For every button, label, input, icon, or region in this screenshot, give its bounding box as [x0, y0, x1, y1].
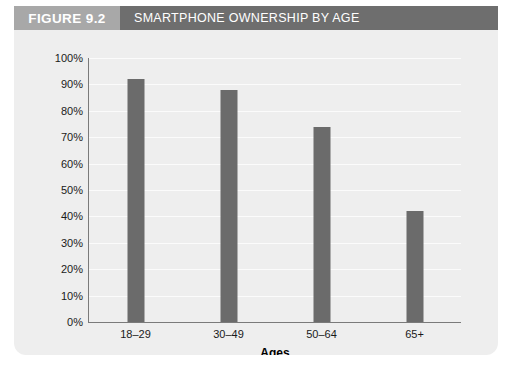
x-axis-title: Ages [260, 346, 289, 355]
gridline [89, 111, 461, 112]
figure-number-label: FIGURE 9.2 [28, 11, 106, 26]
bar [313, 127, 330, 322]
y-axis-tick-label: 70% [61, 131, 83, 143]
y-axis-tick-label: 90% [61, 78, 83, 90]
figure-title: SMARTPHONE OWNERSHIP BY AGE [134, 11, 360, 25]
y-axis-tick-label: 20% [61, 263, 83, 275]
chart-area: 0%10%20%30%40%50%60%70%80%90%100% 18–293… [14, 30, 498, 355]
gridline [89, 164, 461, 165]
y-axis-tick-label: 10% [61, 290, 83, 302]
x-axis-tick-label: 50–64 [306, 328, 337, 340]
x-axis-tick-label: 65+ [405, 328, 424, 340]
figure-title-block: SMARTPHONE OWNERSHIP BY AGE [120, 6, 498, 30]
x-axis-tick-label: 30–49 [213, 328, 244, 340]
figure-number-block: FIGURE 9.2 [14, 6, 120, 30]
y-axis-tick-label: 50% [61, 184, 83, 196]
y-axis-tick-label: 0% [67, 316, 83, 328]
gridline [89, 190, 461, 191]
gridline [89, 58, 461, 59]
bar [127, 79, 144, 322]
gridline [89, 137, 461, 138]
bar [406, 211, 423, 322]
plot-frame: 0%10%20%30%40%50%60%70%80%90%100% 18–293… [88, 58, 461, 323]
x-axis-tick-label: 18–29 [120, 328, 151, 340]
y-axis-tick-label: 40% [61, 210, 83, 222]
y-axis-tick-label: 100% [55, 52, 83, 64]
figure-header: FIGURE 9.2 SMARTPHONE OWNERSHIP BY AGE [14, 6, 498, 30]
y-axis-tick-label: 80% [61, 105, 83, 117]
y-axis-tick-label: 60% [61, 158, 83, 170]
figure-panel: FIGURE 9.2 SMARTPHONE OWNERSHIP BY AGE 0… [14, 6, 498, 355]
bar [220, 90, 237, 322]
gridline [89, 84, 461, 85]
y-axis-tick-label: 30% [61, 237, 83, 249]
